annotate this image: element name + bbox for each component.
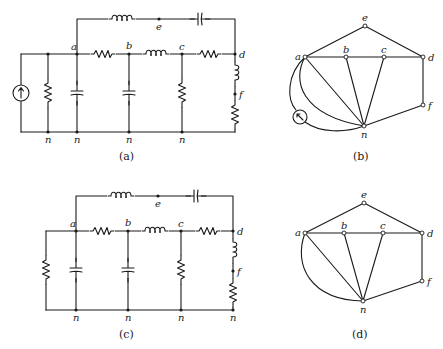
- label-e: e: [361, 189, 367, 200]
- circuit-figure: a b c d e f n n n n (a) a b c d e f: [0, 0, 443, 349]
- label-b: b: [341, 220, 347, 231]
- panel-d-graph: a b c d e f n (d): [295, 189, 433, 341]
- label-d: d: [237, 226, 243, 237]
- label-d: d: [427, 228, 433, 239]
- label-n: n: [178, 312, 184, 323]
- caption-c: (c): [119, 328, 134, 341]
- label-n: n: [125, 312, 131, 323]
- node-b: [126, 229, 129, 232]
- label-n: n: [230, 312, 236, 323]
- node-n: [362, 124, 366, 128]
- label-n: n: [45, 134, 51, 145]
- source-edge: [290, 57, 305, 110]
- label-d: d: [239, 49, 245, 60]
- label-b: b: [343, 44, 349, 55]
- label-a: a: [70, 218, 76, 229]
- label-f: f: [238, 89, 245, 100]
- node-d: [420, 231, 424, 235]
- caption-b: (b): [353, 150, 369, 163]
- node-b: [342, 231, 346, 235]
- panel-c-circuit: a b c d e f n n n n (c): [40, 189, 243, 341]
- node-f: [420, 279, 424, 283]
- label-n: n: [73, 312, 79, 323]
- node-d: [233, 52, 236, 55]
- node-c: [382, 55, 386, 59]
- label-b: b: [126, 40, 132, 51]
- label-a: a: [295, 227, 301, 238]
- node-f: [421, 103, 425, 107]
- node-n: [361, 299, 365, 303]
- label-e: e: [362, 12, 368, 23]
- label-c: c: [178, 218, 184, 229]
- label-a: a: [295, 51, 301, 62]
- caption-a: (a): [119, 150, 134, 163]
- node-c: [381, 231, 385, 235]
- node-b: [127, 52, 130, 55]
- edge-a-n-arc: [300, 57, 364, 126]
- label-n: n: [179, 134, 185, 145]
- label-c: c: [380, 220, 386, 231]
- label-e: e: [155, 198, 161, 209]
- node-d: [421, 55, 425, 59]
- panel-b-graph: a b c d e f n (b): [290, 12, 435, 163]
- caption-d: (d): [352, 328, 368, 341]
- label-d: d: [428, 52, 434, 63]
- node-c: [180, 52, 183, 55]
- node-c: [179, 229, 182, 232]
- label-n: n: [126, 134, 132, 145]
- label-f: f: [236, 266, 243, 277]
- label-n: n: [74, 134, 80, 145]
- node-b: [344, 55, 348, 59]
- node-f: [231, 269, 234, 272]
- node-a: [75, 52, 78, 55]
- node-d: [231, 229, 234, 232]
- node-e: [363, 24, 367, 28]
- node-a: [303, 231, 307, 235]
- label-n: n: [361, 129, 367, 140]
- label-c: c: [179, 41, 185, 52]
- label-c: c: [381, 44, 387, 55]
- node-a: [303, 55, 307, 59]
- node-a: [74, 229, 77, 232]
- label-n: n: [360, 304, 366, 315]
- label-a: a: [71, 41, 77, 52]
- node-e: [362, 201, 366, 205]
- node-f: [233, 92, 236, 95]
- panel-a-circuit: a b c d e f n n n n (a): [13, 12, 245, 163]
- label-f: f: [426, 276, 433, 287]
- label-f: f: [427, 100, 434, 111]
- label-e: e: [156, 21, 162, 32]
- label-b: b: [125, 217, 131, 228]
